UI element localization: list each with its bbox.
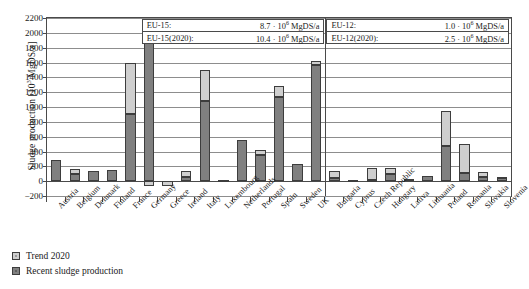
annotation-value-unit: MgDS/a [474,34,504,43]
bar-segment-trend [478,172,488,177]
bar-segment-trend [441,111,451,146]
y-tick-label: 1000 [25,103,43,112]
bar-segment-trend [367,168,377,180]
annotation-value-number: 2.5 · 10 [445,34,471,43]
annotation-key: EU-15(2020): [147,34,194,43]
annotation-row: EU-15: 8.7 · 106 MgDS/a [143,20,324,32]
bar-segment-trend [274,86,284,97]
bar-segment-trend [181,171,191,177]
y-tick-mark [43,181,47,182]
annotation-row: EU-15(2020): 10.4 · 106 MgDS/a [143,32,324,44]
annotation-value: 1.0 · 106 MgDS/a [356,20,504,31]
annotation-value-number: 10.4 · 10 [256,34,286,43]
annotation-box-eu15: EU-15: 8.7 · 106 MgDS/a EU-15(2020): 10.… [142,19,325,44]
legend-label: Recent sludge production [26,266,123,276]
bar-segment-recent [311,65,321,181]
legend-swatch-trend [12,252,20,260]
annotation-value: 8.7 · 106 MgDS/a [171,20,319,31]
bar-segment-trend [311,61,321,65]
bar-segment-recent [107,170,117,181]
y-tick-mark [43,92,47,93]
gridline [47,77,511,78]
annotation-value-number: 1.0 · 10 [445,22,471,31]
bar-segment-recent [274,97,284,181]
group-divider [325,18,326,196]
annotation-value: 2.5 · 106 MgDS/a [378,33,504,44]
annotation-value-unit: MgDS/a [289,22,319,31]
bar-segment-recent [237,140,247,181]
y-tick-mark [43,63,47,64]
y-tick-mark [43,137,47,138]
bar-segment-recent [329,178,339,181]
y-tick-mark [43,122,47,123]
y-tick-mark [43,33,47,34]
legend-label: Trend 2020 [26,251,70,261]
annotation-row: EU-12(2020): 2.5 · 106 MgDS/a [327,32,508,44]
bar-segment-recent [70,174,80,181]
legend: Trend 2020Recent sludge production [12,248,123,278]
y-tick-label: 400 [30,147,44,156]
bar-segment-recent [292,164,302,181]
bar-segment-recent [200,101,210,181]
legend-item: Trend 2020 [12,248,123,263]
bar-segment-recent [459,173,469,181]
bar-segment-trend [125,63,135,114]
plot-area: 2200200018001600140012001000800600400200… [46,17,512,197]
gridline [47,63,511,64]
y-tick-label: 2000 [25,28,43,37]
bar-segment-recent [441,146,451,182]
annotation-value-number: 8.7 · 10 [260,22,286,31]
y-tick-mark [43,77,47,78]
bar-segment-trend [70,169,80,174]
bar-segment-recent [422,176,432,181]
y-tick-label: 1800 [25,43,43,52]
y-tick-label: 800 [30,117,44,126]
annotation-value: 10.4 · 106 MgDS/a [194,33,320,44]
bar-segment-trend [497,177,507,179]
y-tick-label: 1600 [25,58,43,67]
bar-segment-trend [144,181,154,186]
annotation-value-unit: MgDS/a [289,34,319,43]
gridline [47,48,511,49]
x-tick-label: UK [316,195,331,210]
bar-segment-recent [144,28,154,181]
y-tick-label: 1400 [25,73,43,82]
y-tick-label: −200 [24,192,43,201]
annotation-row: EU-12: 1.0 · 106 MgDS/a [327,20,508,32]
y-tick-mark [43,107,47,108]
annotation-value-unit: MgDS/a [474,22,504,31]
y-tick-mark [43,152,47,153]
bar-segment-recent [367,180,377,182]
bar-segment-recent [181,177,191,181]
bar-segment-recent [218,180,228,182]
bar-segment-recent [51,160,61,181]
bar-segment-trend [385,168,395,174]
bar-segment-recent [125,114,135,181]
bar-segment-trend [255,150,265,155]
bar-segment-trend [200,70,210,101]
x-tick-mark [46,197,47,202]
annotation-box-eu12: EU-12: 1.0 · 106 MgDS/a EU-12(2020): 2.5… [326,19,509,44]
y-tick-mark [43,48,47,49]
bar-segment-trend [348,180,358,182]
y-tick-label: 600 [30,132,44,141]
y-tick-mark [43,18,47,19]
bar-segment-trend [459,144,469,173]
y-tick-label: 200 [30,162,44,171]
bar-segment-recent [88,171,98,181]
bar-segment-trend [329,171,339,178]
y-tick-label: 1200 [25,88,43,97]
y-tick-label: 2200 [25,14,43,23]
y-tick-label: 0 [39,177,44,186]
bar-segment-recent [478,177,488,181]
legend-item: Recent sludge production [12,263,123,278]
annotation-key: EU-12: [331,21,356,30]
annotation-key: EU-12(2020): [331,34,378,43]
legend-swatch-recent [12,267,20,275]
y-tick-mark [43,166,47,167]
annotation-key: EU-15: [147,21,172,30]
